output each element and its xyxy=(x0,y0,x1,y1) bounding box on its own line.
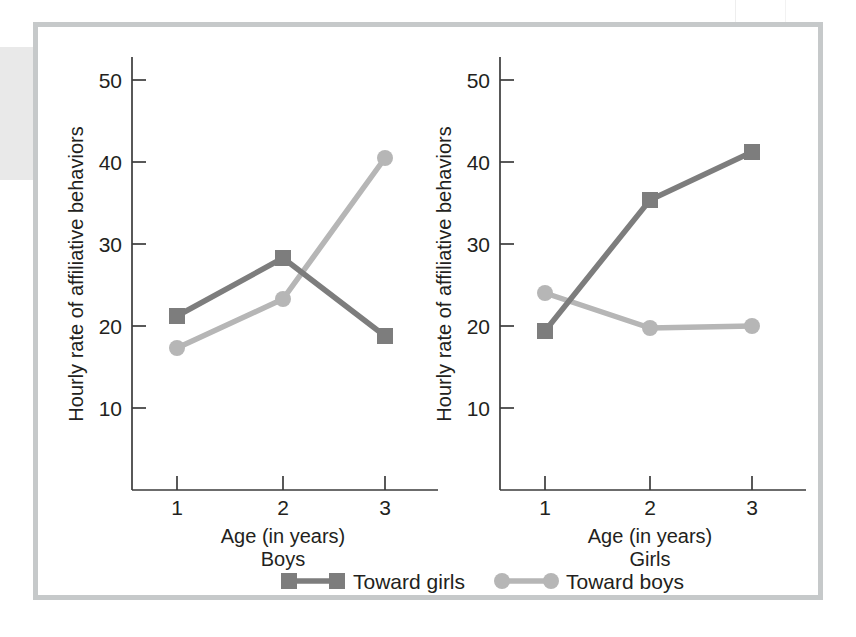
figure-root: 50 40 30 20 10 1 2 3 Hourly rate of affi… xyxy=(0,0,856,637)
figure-border-frame xyxy=(33,22,823,600)
